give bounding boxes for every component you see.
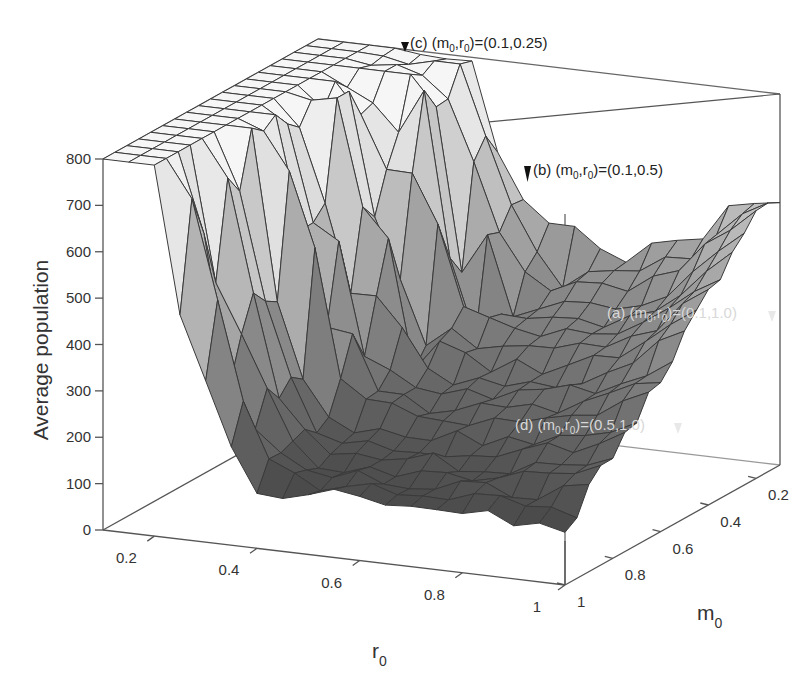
- r0-axis-title: r0: [372, 639, 387, 669]
- r0-tick-label: 1: [533, 598, 541, 615]
- m0-tick-label: 0.2: [768, 486, 789, 503]
- m0-tick-label: 1: [577, 593, 585, 610]
- z-tick-label: 100: [66, 475, 91, 492]
- z-tick-label: 800: [66, 150, 91, 167]
- r0-tick-label: 0.8: [424, 586, 445, 603]
- z-tick-label: 200: [66, 428, 91, 445]
- z-axis-title: Average population: [29, 260, 52, 441]
- m0-tick-label: 0.4: [720, 513, 741, 530]
- m0-axis-title: m0: [697, 601, 723, 631]
- marker-a-icon: [768, 311, 776, 322]
- z-tick-label: 700: [66, 196, 91, 213]
- z-tick-label: 0: [83, 521, 91, 538]
- svg-text:(c) (m0,r0)=(0.1,0.25): (c) (m0,r0)=(0.1,0.25): [410, 34, 547, 54]
- r0-tick-label: 0.4: [219, 561, 240, 578]
- r0-tick-label: 0.6: [321, 574, 342, 591]
- m0-tick-label: 0.8: [625, 566, 646, 583]
- m0-tick-label: 0.6: [673, 540, 694, 557]
- surface-mesh: [103, 39, 780, 532]
- marker-b-icon: [524, 166, 531, 182]
- marker-d-icon: [674, 423, 682, 434]
- z-tick-label: 600: [66, 243, 91, 260]
- r0-tick-label: 0.2: [116, 549, 137, 566]
- svg-text:(b) (m0,r0)=(0.1,0.5): (b) (m0,r0)=(0.1,0.5): [533, 161, 663, 181]
- surface-plot: 01002003004005006007008000.20.40.60.810.…: [0, 0, 811, 699]
- z-tick-label: 400: [66, 336, 91, 353]
- z-tick-label: 500: [66, 289, 91, 306]
- z-tick-label: 300: [66, 382, 91, 399]
- annotation-b: (b) (m0,r0)=(0.1,0.5): [524, 161, 663, 182]
